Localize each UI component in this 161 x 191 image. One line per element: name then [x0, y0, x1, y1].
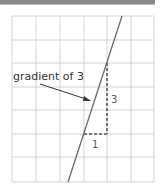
grid [12, 16, 154, 182]
gradient-diagram: gradient of 3 3 1 [0, 0, 161, 191]
run-label: 1 [92, 139, 98, 150]
rise-label: 3 [111, 94, 117, 105]
annotation-label: gradient of 3 [13, 70, 84, 83]
